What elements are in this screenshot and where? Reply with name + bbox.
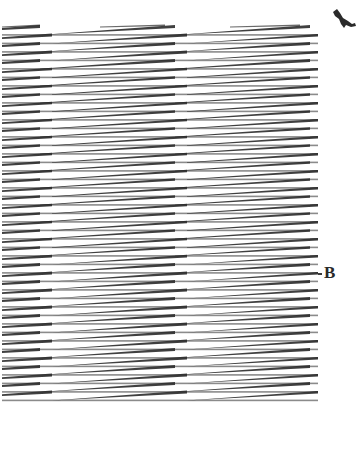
line-illusion-figure [0, 0, 360, 455]
label-b: B [324, 263, 335, 283]
label-b-leader [318, 273, 322, 275]
corner-ink-mark [333, 9, 356, 28]
tapered-stroke-array [2, 25, 318, 402]
